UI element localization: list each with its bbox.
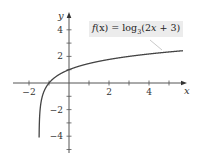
y-tick-label: −2	[50, 105, 63, 115]
y-axis-arrow-icon	[67, 12, 72, 18]
x-tick-label: 2	[106, 87, 112, 97]
function-end: + 3)	[156, 22, 180, 33]
function-label: f(x) = log3(2x + 3)	[89, 21, 183, 37]
function-inner: (2	[141, 22, 151, 33]
y-tick-label: 2	[57, 51, 63, 61]
y-tick-label: −4	[50, 131, 64, 141]
x-axis-label: x	[184, 85, 190, 96]
x-tick-label: 4	[146, 87, 152, 97]
function-arg: (x) = log	[96, 22, 138, 33]
y-axis-label: y	[57, 10, 64, 21]
y-tick-label: 4	[57, 25, 63, 35]
label-leader-line	[150, 40, 162, 50]
x-tick-label: −2	[22, 87, 35, 97]
